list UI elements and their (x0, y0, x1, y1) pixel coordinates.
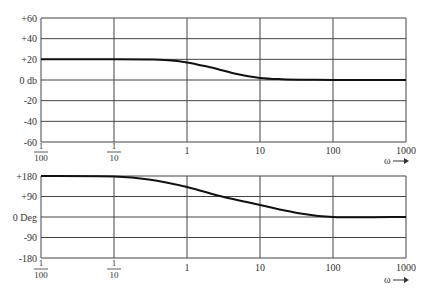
x-tick-numerator: 1 (39, 258, 44, 268)
x-tick-denominator: 100 (34, 153, 48, 163)
magnitude-x-axis-labels: 11001101101001000 (34, 141, 416, 163)
x-tick-denominator: 10 (110, 153, 120, 163)
y-tick-label: +20 (21, 54, 37, 65)
y-tick-label: +90 (21, 191, 37, 202)
x-tick-denominator: 100 (34, 270, 48, 280)
y-tick-label: +40 (21, 33, 37, 44)
x-tick-label: 100 (326, 262, 341, 273)
arrowhead-icon (404, 158, 409, 164)
x-tick-numerator: 1 (39, 141, 44, 151)
omega-label: ω (384, 274, 391, 285)
y-tick-label: 0 db (20, 75, 38, 86)
y-tick-label: -90 (24, 232, 37, 243)
y-tick-label: -60 (24, 137, 37, 148)
y-tick-label: 0 Deg (13, 212, 37, 223)
x-tick-label: 1 (185, 145, 190, 156)
magnitude-omega-axis-label: ω (384, 155, 409, 166)
x-tick-label: 100 (326, 145, 341, 156)
y-tick-label: +180 (16, 171, 37, 182)
x-tick-label: 10 (255, 145, 265, 156)
magnitude-curve (41, 59, 406, 80)
arrowhead-icon (404, 277, 409, 283)
x-tick-numerator: 1 (112, 258, 117, 268)
y-tick-label: -180 (19, 253, 37, 264)
phase-plot: +180+900 Deg-90-180 11001101101001000 ω (13, 171, 416, 286)
x-tick-label: 1000 (396, 145, 416, 156)
phase-x-axis-labels: 11001101101001000 (34, 258, 416, 280)
x-tick-label: 10 (255, 262, 265, 273)
y-tick-label: +60 (21, 13, 37, 24)
phase-y-axis-labels: +180+900 Deg-90-180 (13, 171, 37, 264)
x-tick-label: 1000 (396, 262, 416, 273)
magnitude-y-axis-labels: +60+40+200 db-20-40-60 (20, 13, 38, 148)
x-tick-label: 1 (185, 262, 190, 273)
x-tick-denominator: 10 (110, 270, 120, 280)
y-tick-label: -40 (24, 116, 37, 127)
bode-plot: +60+40+200 db-20-40-60 11001101101001000… (0, 0, 432, 298)
magnitude-plot: +60+40+200 db-20-40-60 11001101101001000… (20, 13, 417, 167)
phase-omega-axis-label: ω (384, 274, 409, 285)
x-tick-numerator: 1 (112, 141, 117, 151)
omega-label: ω (384, 155, 391, 166)
y-tick-label: -20 (24, 95, 37, 106)
